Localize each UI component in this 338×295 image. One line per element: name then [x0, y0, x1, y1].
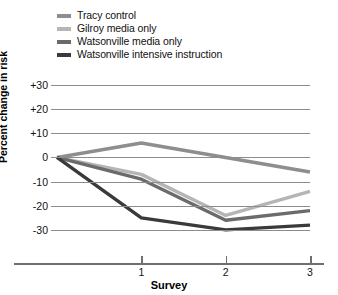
y-axis-title: Percent change in risk — [0, 51, 9, 163]
legend-item: Gilroy media only — [57, 22, 222, 35]
legend-swatch-icon — [57, 40, 71, 44]
legend-swatch-icon — [57, 14, 71, 18]
y-axis-tick — [51, 157, 57, 158]
gridline — [57, 109, 310, 110]
y-axis-tick — [51, 85, 57, 86]
chart-figure: Tracy controlGilroy media onlyWatsonvill… — [0, 0, 338, 295]
plot-area: +30+20+100-10-20-30 — [57, 85, 310, 242]
legend-label: Watsonville intensive instruction — [77, 48, 222, 61]
x-axis-tick — [310, 256, 312, 264]
y-axis-tick-label: -30 — [33, 224, 48, 236]
x-axis-tick-label: 2 — [223, 266, 229, 278]
x-axis-tick-label: 3 — [307, 266, 313, 278]
legend-label: Watsonville media only — [77, 35, 182, 48]
gridline — [57, 230, 310, 231]
x-axis-line — [14, 263, 324, 265]
y-axis-tick-label: -10 — [33, 176, 48, 188]
legend-item: Watsonville intensive instruction — [57, 48, 222, 61]
y-axis-tick — [51, 206, 57, 207]
gridline — [57, 85, 310, 86]
legend-swatch-icon — [57, 27, 71, 31]
y-axis-tick-label: +10 — [30, 127, 48, 139]
y-axis-tick — [51, 109, 57, 110]
legend-swatch-icon — [57, 53, 71, 57]
gridline — [57, 206, 310, 207]
gridline — [57, 133, 310, 134]
chart-legend: Tracy controlGilroy media onlyWatsonvill… — [57, 9, 222, 61]
y-axis-tick-label: +20 — [30, 103, 48, 115]
legend-label: Tracy control — [77, 9, 136, 22]
x-axis-tick — [141, 256, 143, 264]
y-axis-tick-label: +30 — [30, 79, 48, 91]
x-axis-title: Survey — [0, 279, 338, 291]
y-axis-tick — [51, 230, 57, 231]
legend-label: Gilroy media only — [77, 22, 156, 35]
x-axis-tick-label: 1 — [138, 266, 144, 278]
legend-item: Watsonville media only — [57, 35, 222, 48]
y-axis-tick-label: -20 — [33, 200, 48, 212]
gridline — [57, 157, 310, 158]
gridline — [57, 182, 310, 183]
y-axis-tick — [51, 182, 57, 183]
y-axis-tick-label: 0 — [42, 151, 48, 163]
legend-item: Tracy control — [57, 9, 222, 22]
y-axis-tick — [51, 133, 57, 134]
x-axis-tick — [226, 256, 228, 264]
